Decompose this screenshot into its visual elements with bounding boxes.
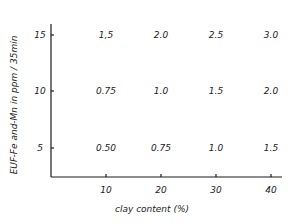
y-tick-label: 15 <box>34 30 45 40</box>
data-value-label: 0.75 <box>96 86 116 96</box>
x-tick-label: 20 <box>155 185 166 195</box>
data-value-label: 2.0 <box>154 30 168 40</box>
data-value-label: 2.5 <box>209 30 223 40</box>
data-value-label: 1.0 <box>209 143 223 153</box>
chart: 10203040510151,52.02.53.00.751.01.52.00.… <box>0 0 295 224</box>
y-axis-label: EUF-Fe and-Mn in ppm / 35min <box>9 36 19 175</box>
data-value-label: 1.5 <box>264 143 278 153</box>
data-value-label: 0.75 <box>151 143 171 153</box>
data-value-label: 1.0 <box>154 86 168 96</box>
data-value-label: 0.50 <box>96 143 116 153</box>
data-value-label: 1.5 <box>209 86 223 96</box>
data-value-label: 3.0 <box>264 30 278 40</box>
data-value-label: 2.0 <box>264 86 278 96</box>
y-tick-label: 10 <box>34 86 45 96</box>
x-tick-label: 40 <box>265 185 276 195</box>
x-tick-label: 30 <box>210 185 221 195</box>
y-tick-label: 5 <box>37 143 43 153</box>
data-value-label: 1,5 <box>99 30 113 40</box>
x-axis-label: clay content (%) <box>115 204 189 214</box>
x-tick-label: 10 <box>100 185 111 195</box>
